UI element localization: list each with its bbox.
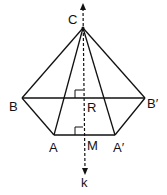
label-M: M [87,139,98,152]
right-angle-marker-R [75,90,83,98]
label-k: k [81,176,88,189]
label-A-prime: A′ [113,141,124,154]
segment-CA-prime [83,28,115,135]
label-R: R [87,101,96,114]
segment-B-prime-A-prime [115,98,145,135]
segment-BA [22,98,54,135]
apex-point [82,27,85,30]
arrow-up-icon [80,3,86,10]
label-C: C [68,13,77,26]
label-B-prime: B′ [147,97,158,110]
segment-CB-prime [83,28,145,98]
arrow-down-icon [82,168,88,175]
geometry-diagram [0,0,167,195]
label-B: B [9,100,18,113]
label-A: A [49,141,58,154]
right-angle-marker-M [75,127,83,135]
